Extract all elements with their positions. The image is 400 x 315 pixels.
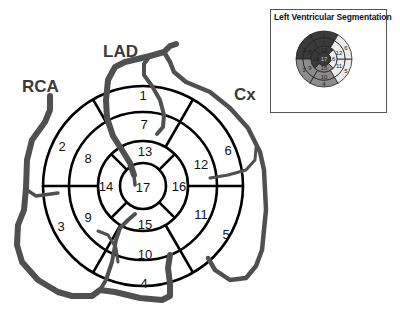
- segment-label-7: 7: [140, 117, 147, 132]
- rca-label: RCA: [22, 78, 59, 95]
- segment-label-14: 14: [99, 179, 113, 194]
- segment-label-13: 13: [138, 144, 152, 159]
- lad-label: LAD: [103, 43, 138, 60]
- segment-label-9: 9: [84, 210, 91, 225]
- segment-label-8: 8: [84, 151, 91, 166]
- cx-label: Cx: [234, 86, 256, 103]
- segment-label-4: 4: [140, 276, 147, 291]
- inset-title: Left Ventricular Segmentation: [274, 12, 392, 22]
- segment-label-6: 6: [224, 143, 231, 158]
- segment-label-5: 5: [222, 227, 229, 242]
- inset-panel: Left Ventricular Segmentation: [270, 9, 387, 113]
- segment-label-11: 11: [194, 207, 208, 222]
- segment-label-1: 1: [139, 88, 146, 103]
- segment-label-15: 15: [138, 217, 152, 232]
- segment-label-3: 3: [57, 219, 64, 234]
- segment-label-12: 12: [194, 157, 208, 172]
- segment-label-10: 10: [138, 247, 152, 262]
- segment-label-17: 17: [136, 180, 150, 195]
- segment-labels: 1 2 3 4 5 6 7 8 9 10 11 12 13 14 15 16 1…: [57, 88, 231, 291]
- segment-label-2: 2: [58, 139, 65, 154]
- segment-label-16: 16: [172, 179, 186, 194]
